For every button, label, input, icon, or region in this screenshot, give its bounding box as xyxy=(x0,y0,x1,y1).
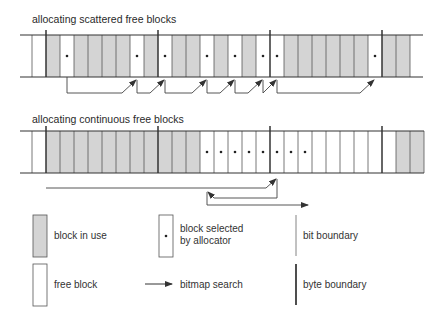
legend-bit-label: bit boundary xyxy=(303,230,358,242)
selected-dot xyxy=(262,151,265,154)
block-in-use xyxy=(186,131,200,173)
block-in-use xyxy=(172,35,186,77)
legend-selected-label-2: by allocator xyxy=(180,235,231,247)
selected-dot xyxy=(234,55,237,58)
allocation-diagram xyxy=(0,0,441,323)
legend-search-label: bitmap search xyxy=(180,279,243,291)
block-in-use xyxy=(158,131,172,173)
legend-selected-dot xyxy=(165,235,168,238)
free-block xyxy=(382,131,396,173)
selected-dot xyxy=(136,55,139,58)
selected-dot xyxy=(262,55,265,58)
block-in-use xyxy=(46,35,60,77)
selected-dot xyxy=(374,55,377,58)
selected-dot xyxy=(276,151,279,154)
selected-dot xyxy=(164,55,167,58)
selected-dot xyxy=(304,151,307,154)
block-in-use xyxy=(312,35,326,77)
legend-selected-label-1: block selected xyxy=(180,223,243,235)
selected-dot xyxy=(290,151,293,154)
block-in-use xyxy=(340,35,354,77)
free-block xyxy=(340,131,354,173)
block-in-use xyxy=(46,131,60,173)
block-in-use xyxy=(396,131,410,173)
block-in-use xyxy=(214,35,228,77)
row1-search-arrows xyxy=(67,77,374,93)
block-in-use xyxy=(102,131,116,173)
block-in-use xyxy=(130,131,144,173)
selected-dot xyxy=(206,151,209,154)
block-in-use xyxy=(382,35,396,77)
legend-used-label: block in use xyxy=(54,230,107,242)
row1-bitmap xyxy=(20,30,423,77)
block-in-use xyxy=(88,35,102,77)
block-in-use xyxy=(410,131,424,173)
legend-used-swatch xyxy=(33,215,47,257)
legend-byte-label: byte boundary xyxy=(303,279,366,291)
free-block xyxy=(368,131,382,173)
block-in-use xyxy=(298,35,312,77)
block-in-use xyxy=(284,35,298,77)
free-block xyxy=(32,35,46,77)
free-block xyxy=(326,131,340,173)
selected-dot xyxy=(66,55,69,58)
block-in-use xyxy=(60,131,74,173)
block-in-use xyxy=(354,35,368,77)
block-in-use xyxy=(242,35,256,77)
selected-dot xyxy=(234,151,237,154)
block-in-use xyxy=(102,35,116,77)
block-in-use xyxy=(88,131,102,173)
block-in-use xyxy=(116,131,130,173)
block-in-use xyxy=(144,35,158,77)
row2-search-arrows xyxy=(46,179,308,205)
selected-dot xyxy=(248,151,251,154)
block-in-use xyxy=(396,35,410,77)
block-in-use xyxy=(144,131,158,173)
block-in-use xyxy=(172,131,186,173)
legend-graphics xyxy=(33,215,296,306)
legend-free-swatch xyxy=(33,264,47,306)
block-in-use xyxy=(116,35,130,77)
block-in-use xyxy=(74,35,88,77)
block-in-use xyxy=(186,35,200,77)
selected-dot xyxy=(206,55,209,58)
free-block xyxy=(32,131,46,173)
block-in-use xyxy=(326,35,340,77)
row2-bitmap xyxy=(20,126,424,173)
block-in-use xyxy=(74,131,88,173)
free-block xyxy=(312,131,326,173)
selected-dot xyxy=(220,151,223,154)
legend-free-label: free block xyxy=(54,279,97,291)
selected-dot xyxy=(276,55,279,58)
free-block xyxy=(354,131,368,173)
